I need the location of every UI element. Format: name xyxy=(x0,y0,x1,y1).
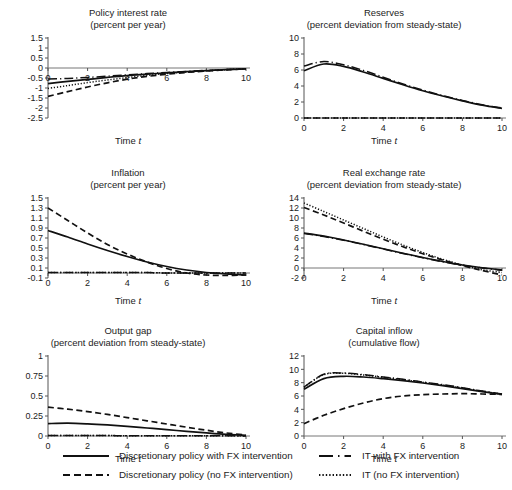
series-line xyxy=(48,69,246,84)
y-tick-label: 1.1 xyxy=(30,213,43,223)
y-tick-label: -0.1 xyxy=(27,273,43,283)
legend-label: IT (no FX intervention) xyxy=(362,469,459,480)
x-axis-label-inflation: Time t xyxy=(0,295,256,306)
legend-key-dotted-icon xyxy=(318,469,352,481)
x-axis-label-policy-interest-rate: Time t xyxy=(0,135,256,146)
plot-area-output-gap: 10.750.50.2500246810 xyxy=(0,348,256,452)
x-tick-label: 0 xyxy=(45,73,50,83)
legend-item-it-with-fx: IT with FX intervention xyxy=(318,446,459,465)
y-tick-label: 0.1 xyxy=(30,263,43,273)
x-tick-label: 10 xyxy=(241,73,251,83)
y-tick-label: 10 xyxy=(289,33,299,43)
y-tick-label: 12 xyxy=(289,351,299,361)
x-axis-label-real-exchange-rate: Time t xyxy=(256,295,512,306)
plot-svg-inflation: 1.51.31.10.90.70.50.30.1-0.10246810 xyxy=(0,190,256,294)
panel-inflation: Inflation (percent per year) 1.51.31.10.… xyxy=(0,160,256,310)
y-tick-label: 4 xyxy=(294,405,299,415)
plot-svg-capital-inflow: 1210864200246810 xyxy=(256,348,512,452)
panel-reserves: Reserves (percent deviation from steady-… xyxy=(256,0,512,150)
y-tick-label: 10 xyxy=(289,365,299,375)
legend-label: IT with FX intervention xyxy=(362,450,459,461)
chart-subtitle: (percent deviation from steady-state) xyxy=(256,179,512,191)
legend-label: Discretionary policy (no FX intervention… xyxy=(119,469,293,480)
chart-title: Policy interest rate xyxy=(0,7,256,19)
y-tick-label: -0.5 xyxy=(27,73,43,83)
y-tick-label: 0.5 xyxy=(30,243,43,253)
x-tick-label: 10 xyxy=(497,123,507,133)
y-tick-label: -1 xyxy=(35,83,43,93)
plot-area-inflation: 1.51.31.10.90.70.50.30.1-0.10246810 xyxy=(0,190,256,294)
y-tick-label: 0.75 xyxy=(25,371,43,381)
series-line xyxy=(304,234,502,271)
legend-item-discretionary-no-fx: Discretionary policy (no FX intervention… xyxy=(62,465,293,484)
plot-svg-real-exchange-rate: 14121086420-20246810 xyxy=(256,190,512,294)
panel-title-output-gap: Output gap (percent deviation from stead… xyxy=(0,318,256,348)
y-tick-label: 6 xyxy=(294,233,299,243)
series-line xyxy=(304,233,502,270)
panel-title-inflation: Inflation (percent per year) xyxy=(0,160,256,190)
x-tick-label: 10 xyxy=(241,278,251,288)
y-tick-label: 4 xyxy=(294,81,299,91)
y-tick-label: 2 xyxy=(294,418,299,428)
chart-title: Reserves xyxy=(256,7,512,19)
y-tick-label: 0.7 xyxy=(30,233,43,243)
x-tick-label: 0 xyxy=(301,273,306,283)
y-tick-label: -2 xyxy=(35,103,43,113)
y-tick-label: 1.3 xyxy=(30,203,43,213)
chart-title: Inflation xyxy=(0,167,256,179)
y-tick-label: 0.9 xyxy=(30,223,43,233)
y-tick-label: 6 xyxy=(294,65,299,75)
x-axis-label-reserves: Time t xyxy=(256,135,512,146)
x-tick-label: 2 xyxy=(341,123,346,133)
y-tick-label: 6 xyxy=(294,391,299,401)
x-tick-label: 8 xyxy=(204,73,209,83)
series-line xyxy=(48,231,246,276)
series-line xyxy=(304,64,502,109)
y-tick-label: 1 xyxy=(38,351,43,361)
x-tick-label: 4 xyxy=(381,123,386,133)
chart-subtitle: (percent per year) xyxy=(0,179,256,191)
legend-key-solid-icon xyxy=(62,450,110,462)
x-tick-label: 2 xyxy=(85,278,90,288)
y-tick-label: 2 xyxy=(294,97,299,107)
series-line xyxy=(48,407,246,435)
y-tick-label: 10 xyxy=(289,213,299,223)
y-tick-label: 2 xyxy=(294,253,299,263)
y-tick-label: 0 xyxy=(294,113,299,123)
y-tick-label: 0.5 xyxy=(30,53,43,63)
x-tick-label: 6 xyxy=(164,278,169,288)
x-tick-label: 0 xyxy=(301,123,306,133)
x-tick-label: 0 xyxy=(45,278,50,288)
x-tick-label: 6 xyxy=(420,123,425,133)
y-tick-label: 1.5 xyxy=(30,33,43,43)
legend-key-dash-dot-icon xyxy=(318,450,352,462)
panel-real-exchange-rate: Real exchange rate (percent deviation fr… xyxy=(256,160,512,310)
x-tick-label: 4 xyxy=(125,278,130,288)
plot-svg-reserves: 02468100246810 xyxy=(256,30,512,134)
chart-title: Output gap xyxy=(0,325,256,337)
legend-column-right: IT with FX intervention IT (no FX interv… xyxy=(318,446,459,484)
series-line xyxy=(304,208,502,276)
plot-area-real-exchange-rate: 14121086420-20246810 xyxy=(256,190,512,294)
legend-item-discretionary-with-fx: Discretionary policy with FX interventio… xyxy=(62,446,293,465)
legend-column-left: Discretionary policy with FX interventio… xyxy=(62,446,293,484)
y-tick-label: 0.25 xyxy=(25,411,43,421)
figure-legend: Discretionary policy with FX interventio… xyxy=(0,446,512,486)
x-tick-label: 2 xyxy=(341,273,346,283)
plot-svg-policy-interest-rate: 1.510.50-0.5-1-1.5-2-2.50246810 xyxy=(0,30,256,134)
series-line xyxy=(48,69,246,79)
x-tick-label: 8 xyxy=(460,273,465,283)
y-tick-label: 8 xyxy=(294,378,299,388)
x-tick-label: 4 xyxy=(381,273,386,283)
legend-label: Discretionary policy with FX interventio… xyxy=(119,450,293,461)
panel-title-capital-inflow: Capital inflow (cumulative flow) xyxy=(256,318,512,348)
y-tick-label: -2.5 xyxy=(27,113,43,123)
x-tick-label: 8 xyxy=(460,123,465,133)
legend-item-it-no-fx: IT (no FX intervention) xyxy=(318,465,459,484)
y-tick-label: -1.5 xyxy=(27,93,43,103)
y-tick-label: 0.5 xyxy=(30,391,43,401)
y-tick-label: 0 xyxy=(294,263,299,273)
x-tick-label: 6 xyxy=(420,273,425,283)
y-tick-label: 0 xyxy=(38,63,43,73)
y-tick-label: 12 xyxy=(289,203,299,213)
